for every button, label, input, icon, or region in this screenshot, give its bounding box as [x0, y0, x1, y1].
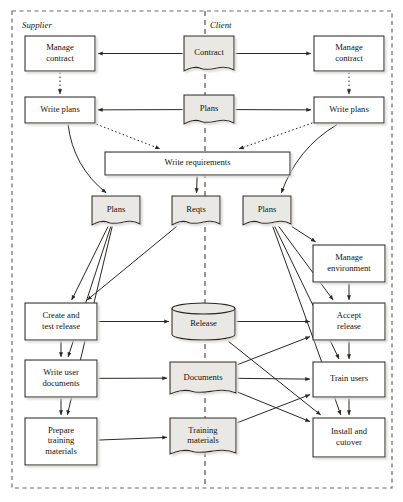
- edge-documents-to-accept-release: [238, 337, 310, 365]
- node-label-manage-contract-supplier: contract: [46, 53, 74, 63]
- node-label-write-requirements: Write requirements: [164, 157, 231, 167]
- node-label-install-and-cutover: Install and: [331, 426, 368, 436]
- node-label-accept-release: Accept: [337, 310, 362, 320]
- edge-reqts-to-create-and-test-release: [87, 227, 176, 300]
- node-write-requirements[interactable]: Write requirements: [105, 152, 290, 175]
- edge-documents-to-train-users: [238, 378, 310, 379]
- swimlane-label-supplier: Supplier: [22, 20, 52, 30]
- node-label-manage-environment: environment: [327, 263, 371, 273]
- node-label-train-users: Train users: [330, 373, 369, 383]
- node-prepare-training-materials[interactable]: Preparetrainingmaterials: [25, 418, 97, 465]
- node-plans-central[interactable]: Plans: [184, 95, 234, 124]
- node-label-prepare-training-materials: materials: [45, 446, 77, 456]
- edge-plans-client-to-manage-environment: [292, 227, 316, 242]
- node-write-plans-supplier[interactable]: Write plans: [25, 97, 95, 123]
- node-label-plans-supplier: Plans: [107, 204, 126, 214]
- node-label-plans-central: Plans: [200, 103, 219, 113]
- node-label-write-user-documents: documents: [42, 378, 80, 388]
- node-label-prepare-training-materials: Prepare: [48, 425, 74, 435]
- node-write-user-documents[interactable]: Write userdocuments: [25, 360, 97, 397]
- node-release[interactable]: Release: [172, 303, 235, 340]
- node-manage-contract-supplier[interactable]: Managecontract: [25, 36, 95, 71]
- node-label-release: Release: [190, 318, 217, 328]
- node-label-training-materials: materials: [187, 435, 219, 445]
- node-install-and-cutover[interactable]: Install andcutover: [313, 418, 385, 457]
- node-label-plans-client: Plans: [258, 204, 277, 214]
- node-label-install-and-cutover: cutover: [336, 437, 362, 447]
- swimlane-label-client: Client: [210, 20, 232, 30]
- node-label-training-materials: Training: [188, 425, 218, 435]
- edge-prepare-training-materials-to-training-materials: [99, 437, 167, 440]
- node-label-documents: Documents: [183, 372, 223, 382]
- node-label-write-plans-client: Write plans: [329, 104, 369, 114]
- edge-documents-to-install-and-cutover: [238, 392, 310, 421]
- node-label-manage-environment: Manage: [335, 252, 363, 262]
- node-reqts[interactable]: Reqts: [172, 196, 220, 225]
- process-flow-diagram: ManagecontractContractManagecontractWrit…: [0, 0, 403, 502]
- node-label-manage-contract-client: contract: [335, 53, 363, 63]
- node-label-manage-contract-client: Manage: [335, 42, 363, 52]
- node-write-plans-client[interactable]: Write plans: [314, 97, 384, 123]
- node-label-contract: Contract: [194, 47, 224, 57]
- edge-write-requirements-to-reqts: [197, 177, 198, 193]
- lane-label-layer: SupplierClient: [22, 20, 232, 30]
- node-contract[interactable]: Contract: [184, 36, 234, 71]
- node-label-manage-contract-supplier: Manage: [46, 42, 74, 52]
- node-label-create-and-test-release: test release: [42, 321, 80, 331]
- node-label-prepare-training-materials: training: [48, 435, 75, 445]
- node-label-write-plans-supplier: Write plans: [40, 104, 80, 114]
- node-plans-supplier[interactable]: Plans: [92, 196, 140, 225]
- node-manage-environment[interactable]: Manageenvironment: [313, 245, 385, 282]
- node-manage-contract-client[interactable]: Managecontract: [314, 36, 384, 71]
- node-plans-client[interactable]: Plans: [243, 196, 291, 225]
- node-training-materials[interactable]: Trainingmaterials: [170, 418, 236, 454]
- edge-write-plans-client-to-write-requirements: [239, 123, 312, 149]
- node-label-accept-release: release: [337, 321, 361, 331]
- node-label-create-and-test-release: Create and: [43, 310, 81, 320]
- node-label-write-user-documents: Write user: [43, 367, 79, 377]
- edge-write-plans-supplier-to-plans-supplier: [68, 125, 106, 193]
- node-accept-release[interactable]: Acceptrelease: [313, 303, 385, 340]
- node-train-users[interactable]: Train users: [313, 362, 385, 397]
- edge-write-plans-supplier-to-write-requirements: [97, 124, 160, 149]
- diagram-canvas: ManagecontractContractManagecontractWrit…: [0, 0, 403, 502]
- edge-training-materials-to-train-users: [238, 395, 310, 423]
- node-create-and-test-release[interactable]: Create andtest release: [25, 303, 97, 340]
- node-label-reqts: Reqts: [186, 204, 206, 214]
- node-documents[interactable]: Documents: [170, 362, 236, 394]
